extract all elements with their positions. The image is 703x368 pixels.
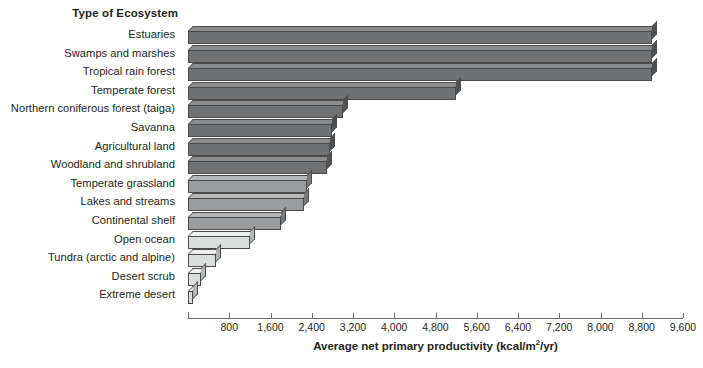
axis-tick — [394, 313, 395, 318]
bar-row: Continental shelf — [0, 212, 703, 230]
axis-tick — [271, 313, 272, 318]
bar — [188, 119, 332, 137]
bar-label: Tropical rain forest — [0, 63, 175, 81]
bar-row: Estuaries — [0, 26, 703, 44]
value-axis-line — [188, 318, 683, 319]
axis-tick — [436, 313, 437, 318]
bar — [188, 156, 327, 174]
bar-side-face — [304, 188, 309, 206]
bar-label: Lakes and streams — [0, 193, 175, 211]
bar-row: Temperate forest — [0, 82, 703, 100]
bar-front-face — [188, 143, 330, 156]
bar-row: Agricultural land — [0, 138, 703, 156]
bar-front-face — [188, 87, 456, 100]
bar — [188, 45, 652, 63]
bar-row: Northern coniferous forest (taiga) — [0, 100, 703, 118]
bar-front-face — [188, 180, 307, 193]
bar-label: Open ocean — [0, 231, 175, 249]
bar-side-face — [193, 281, 198, 299]
bar — [188, 82, 456, 100]
bar-side-face — [456, 77, 461, 95]
bar — [188, 175, 307, 193]
value-axis-title-suffix: /yr) — [540, 340, 558, 352]
bar-front-face — [188, 68, 652, 81]
axis-tick — [683, 313, 684, 318]
bar-row: Swamps and marshes — [0, 45, 703, 63]
bar-side-face — [652, 40, 657, 58]
bar-label: Tundra (arctic and alpine) — [0, 249, 175, 267]
bar-front-face — [188, 50, 652, 63]
category-axis-title: Type of Ecosystem — [0, 7, 178, 19]
bar-side-face — [281, 207, 286, 225]
ecosystem-productivity-chart: Type of Ecosystem EstuariesSwamps and ma… — [0, 0, 703, 368]
bar-label: Continental shelf — [0, 212, 175, 230]
bar-side-face — [216, 244, 221, 262]
bar-label: Northern coniferous forest (taiga) — [0, 100, 175, 118]
bar-label: Desert scrub — [0, 268, 175, 286]
value-axis-title-prefix: Average net primary productivity (kcal/m — [313, 340, 536, 352]
axis-tick — [353, 313, 354, 318]
bar-front-face — [188, 124, 332, 137]
bar-side-face — [332, 114, 337, 132]
plot-area: EstuariesSwamps and marshesTropical rain… — [0, 26, 703, 314]
bar-row: Tundra (arctic and alpine) — [0, 249, 703, 267]
axis-tick — [312, 313, 313, 318]
bar-label: Swamps and marshes — [0, 45, 175, 63]
bar-side-face — [201, 263, 206, 281]
bar-label: Temperate forest — [0, 82, 175, 100]
axis-tick — [601, 313, 602, 318]
bar-label: Estuaries — [0, 26, 175, 44]
bar — [188, 212, 281, 230]
bar — [188, 193, 304, 211]
axis-tick — [642, 313, 643, 318]
bar — [188, 100, 343, 118]
bar-front-face — [188, 291, 193, 304]
bar-front-face — [188, 161, 327, 174]
bar-row: Desert scrub — [0, 268, 703, 286]
value-axis-title: Average net primary productivity (kcal/m… — [188, 340, 683, 352]
axis-tick — [477, 313, 478, 318]
bar-side-face — [343, 95, 348, 113]
bar-label: Savanna — [0, 119, 175, 137]
axis-tick-label: 9,600 — [653, 321, 703, 333]
bar-side-face — [327, 151, 332, 169]
bar-side-face — [652, 21, 657, 39]
bar-row: Savanna — [0, 119, 703, 137]
bar-label: Agricultural land — [0, 138, 175, 156]
axis-tick — [229, 313, 230, 318]
bar-row: Open ocean — [0, 231, 703, 249]
bar-row: Tropical rain forest — [0, 63, 703, 81]
axis-tick — [559, 313, 560, 318]
bar-label: Woodland and shrubland — [0, 156, 175, 174]
bar — [188, 249, 216, 267]
bar — [188, 63, 652, 81]
bar-front-face — [188, 198, 304, 211]
bar-front-face — [188, 31, 652, 44]
axis-tick — [518, 313, 519, 318]
bar-front-face — [188, 105, 343, 118]
bar-side-face — [652, 58, 657, 76]
bar-row: Lakes and streams — [0, 193, 703, 211]
bar-label: Temperate grassland — [0, 175, 175, 193]
bar — [188, 138, 330, 156]
bar — [188, 286, 193, 304]
bar-front-face — [188, 217, 281, 230]
bar-row: Woodland and shrubland — [0, 156, 703, 174]
bar-row: Temperate grassland — [0, 175, 703, 193]
bar-row: Extreme desert — [0, 286, 703, 304]
bar — [188, 26, 652, 44]
bar-label: Extreme desert — [0, 286, 175, 304]
